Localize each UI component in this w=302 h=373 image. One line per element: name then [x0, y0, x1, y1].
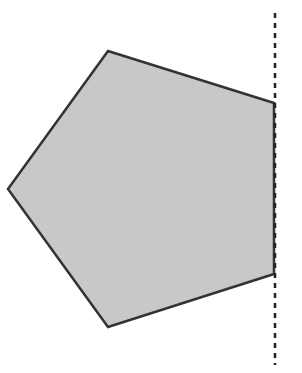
- pentagon-shape: [8, 51, 274, 327]
- diagram-canvas: [0, 0, 302, 373]
